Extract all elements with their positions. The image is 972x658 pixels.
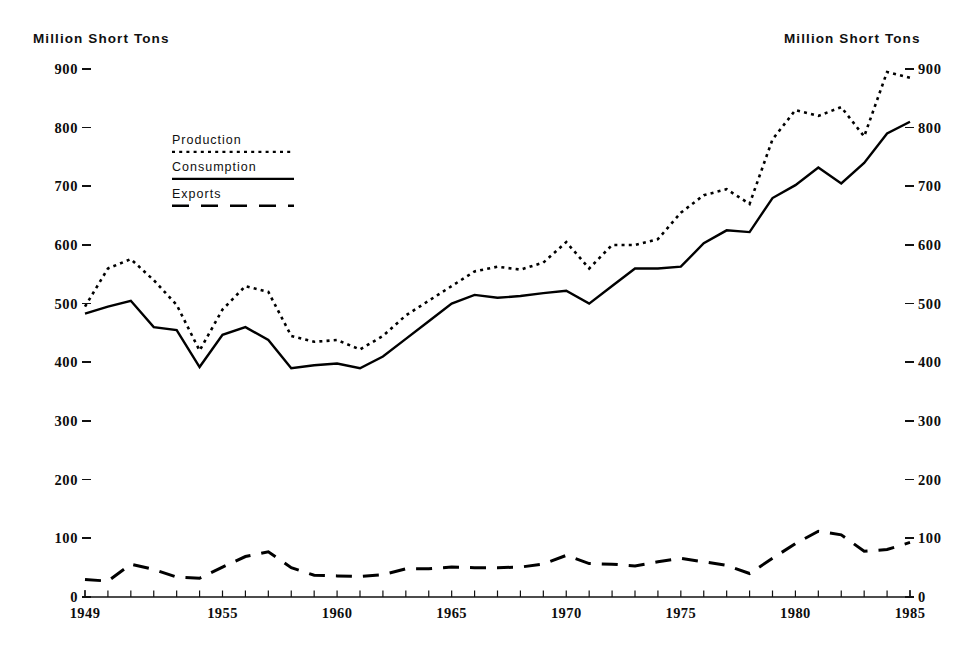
- y-tick-label-left-700: 700: [20, 178, 78, 195]
- y-tick-label-left-400: 400: [20, 354, 78, 371]
- x-tick-label-1965: 1965: [436, 605, 467, 622]
- y-tick-label-left-800: 800: [20, 119, 78, 136]
- y-tick-mark-left: [82, 127, 91, 129]
- y-tick-label-left-300: 300: [20, 413, 78, 430]
- y-tick-mark-left: [82, 537, 91, 539]
- y-tick-mark-right: [905, 68, 914, 70]
- x-tick-label-1985: 1985: [895, 605, 926, 622]
- y-tick-label-right-700: 700: [918, 178, 942, 195]
- y-tick-mark-right: [905, 596, 914, 598]
- y-tick-mark-right: [905, 303, 914, 305]
- y-tick-label-right-300: 300: [918, 413, 942, 430]
- x-tick-label-1970: 1970: [551, 605, 582, 622]
- series-line-exports: [85, 531, 910, 581]
- y-tick-label-left-200: 200: [20, 471, 78, 488]
- x-tick-label-1949: 1949: [70, 605, 101, 622]
- y-tick-label-right-0: 0: [918, 589, 926, 606]
- y-tick-mark-right: [905, 185, 914, 187]
- x-tick-label-1955: 1955: [207, 605, 238, 622]
- y-tick-mark-left: [82, 68, 91, 70]
- y-tick-mark-left: [82, 361, 91, 363]
- y-tick-label-right-200: 200: [918, 471, 942, 488]
- y-tick-label-right-900: 900: [918, 61, 942, 78]
- y-tick-mark-left: [82, 185, 91, 187]
- y-tick-label-left-600: 600: [20, 237, 78, 254]
- y-tick-mark-left: [82, 596, 91, 598]
- plot-area: [0, 0, 972, 658]
- x-tick-label-1960: 1960: [322, 605, 353, 622]
- y-tick-mark-right: [905, 479, 914, 481]
- series-line-production: [85, 72, 910, 351]
- y-tick-label-right-400: 400: [918, 354, 942, 371]
- y-tick-mark-right: [905, 244, 914, 246]
- y-tick-label-right-800: 800: [918, 119, 942, 136]
- y-tick-label-left-100: 100: [20, 530, 78, 547]
- x-tick-label-1980: 1980: [780, 605, 811, 622]
- y-tick-label-left-900: 900: [20, 61, 78, 78]
- y-tick-label-left-500: 500: [20, 295, 78, 312]
- chart-container: Million Short Tons Million Short Tons Pr…: [0, 0, 972, 658]
- y-tick-mark-right: [905, 420, 914, 422]
- y-tick-label-right-500: 500: [918, 295, 942, 312]
- series-line-consumption: [85, 122, 910, 368]
- y-tick-mark-left: [82, 244, 91, 246]
- y-tick-mark-right: [905, 127, 914, 129]
- y-tick-mark-right: [905, 361, 914, 363]
- x-tick-label-1975: 1975: [666, 605, 697, 622]
- y-tick-mark-left: [82, 479, 91, 481]
- y-tick-label-right-600: 600: [918, 237, 942, 254]
- y-tick-label-left-0: 0: [20, 589, 78, 606]
- y-tick-mark-left: [82, 303, 91, 305]
- y-tick-mark-left: [82, 420, 91, 422]
- y-tick-mark-right: [905, 537, 914, 539]
- y-tick-label-right-100: 100: [918, 530, 942, 547]
